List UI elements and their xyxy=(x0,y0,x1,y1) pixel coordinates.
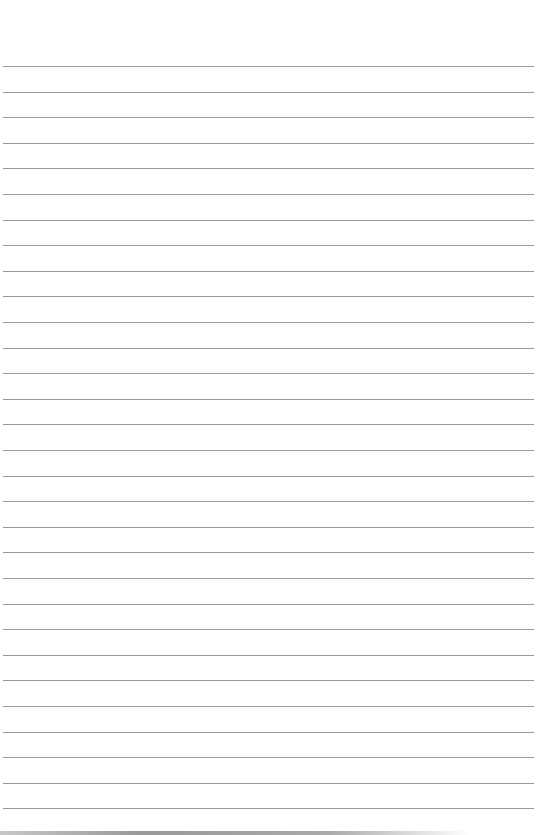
ruled-line xyxy=(3,604,534,605)
page-bottom-edge xyxy=(0,831,470,835)
ruled-line xyxy=(3,348,534,349)
ruled-line xyxy=(3,168,534,169)
ruled-line xyxy=(3,552,534,553)
ruled-line xyxy=(3,706,534,707)
ruled-line xyxy=(3,476,534,477)
ruled-line xyxy=(3,680,534,681)
ruled-line xyxy=(3,527,534,528)
ruled-line xyxy=(3,399,534,400)
ruled-line xyxy=(3,655,534,656)
ruled-line xyxy=(3,92,534,93)
ruled-line xyxy=(3,66,534,67)
ruled-line xyxy=(3,757,534,758)
ruled-line xyxy=(3,245,534,246)
ruled-line xyxy=(3,732,534,733)
ruled-line xyxy=(3,194,534,195)
ruled-line xyxy=(3,220,534,221)
ruled-line xyxy=(3,373,534,374)
ruled-line xyxy=(3,578,534,579)
ruled-line xyxy=(3,271,534,272)
ruled-line xyxy=(3,501,534,502)
ruled-line xyxy=(3,296,534,297)
ruled-line xyxy=(3,629,534,630)
ruled-line xyxy=(3,808,534,809)
ruled-line xyxy=(3,783,534,784)
ruled-line xyxy=(3,322,534,323)
ruled-line xyxy=(3,117,534,118)
ruled-line xyxy=(3,450,534,451)
ruled-line xyxy=(3,143,534,144)
ruled-line xyxy=(3,424,534,425)
